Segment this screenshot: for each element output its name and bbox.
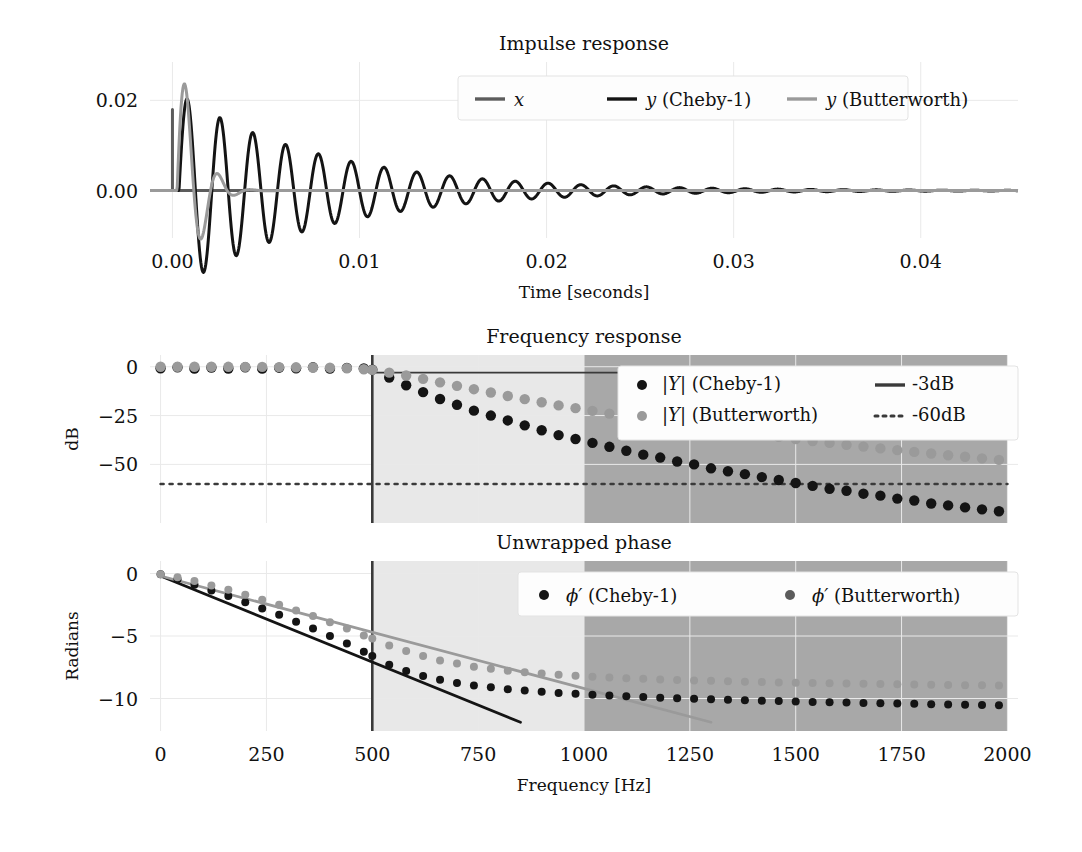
ytick-label: 0 xyxy=(126,356,138,378)
data-point xyxy=(858,441,868,451)
data-point xyxy=(893,680,901,688)
legend-label-text: (Butterworth) xyxy=(828,585,960,606)
data-point xyxy=(536,425,546,435)
data-point xyxy=(961,701,969,709)
legend-label-text: (Cheby-1) xyxy=(656,89,751,110)
data-point xyxy=(875,490,885,500)
series-y-cheby-1- xyxy=(150,99,1018,272)
data-point xyxy=(604,442,614,452)
data-point xyxy=(587,406,597,416)
data-point xyxy=(240,362,250,372)
data-point xyxy=(774,475,784,485)
data-point xyxy=(622,692,630,700)
data-point xyxy=(292,618,300,626)
figure-canvas: Impulse response0.000.020.000.010.020.03… xyxy=(0,0,1082,852)
series-x xyxy=(172,109,1014,190)
impulse-path xyxy=(172,109,1014,190)
data-point xyxy=(892,445,902,455)
data-point xyxy=(875,443,885,453)
ytick-label: −50 xyxy=(98,453,138,475)
data-point xyxy=(961,681,969,689)
legend-phase[interactable]: ϕ′ (Cheby-1)ϕ′ (Butterworth) xyxy=(518,572,1018,616)
ytick-label: −25 xyxy=(98,405,138,427)
data-point xyxy=(707,695,715,703)
data-point xyxy=(241,591,249,599)
data-point xyxy=(639,675,647,683)
data-point xyxy=(469,405,479,415)
xaxis-label: Time [seconds] xyxy=(519,282,650,302)
xtick-label: 0 xyxy=(155,743,167,765)
data-point xyxy=(343,625,351,633)
data-point xyxy=(656,675,664,683)
data-point xyxy=(520,420,530,430)
data-point xyxy=(241,598,249,606)
data-point xyxy=(572,672,580,680)
data-point xyxy=(487,665,495,673)
ytick-label: −5 xyxy=(110,625,138,647)
data-point xyxy=(876,699,884,707)
legend-marker-dot xyxy=(539,590,549,600)
legend-magnitude[interactable]: |Y| (Cheby-1)|Y| (Butterworth)-3dB-60dB xyxy=(618,366,1018,440)
legend-label-text: (Cheby-1) xyxy=(582,585,677,606)
data-point xyxy=(570,403,580,413)
data-point xyxy=(843,699,851,707)
data-point xyxy=(926,448,936,458)
data-point xyxy=(368,635,376,643)
legend-impulse[interactable]: xy (Cheby-1)y (Butterworth) xyxy=(458,76,968,120)
data-point xyxy=(452,400,462,410)
legend-item[interactable]: |Y| (Butterworth) xyxy=(637,404,818,426)
data-point xyxy=(994,506,1004,516)
data-point xyxy=(487,683,495,691)
data-point xyxy=(402,647,410,655)
xtick-label: 1000 xyxy=(560,743,608,765)
data-point xyxy=(587,438,597,448)
xtick-label: 1250 xyxy=(666,743,714,765)
data-point xyxy=(706,463,716,473)
yaxis-label: Radians xyxy=(62,611,82,680)
data-point xyxy=(309,612,317,620)
data-point xyxy=(275,601,283,609)
xtick-label: 0.03 xyxy=(712,250,754,272)
xtick-label: 2000 xyxy=(983,743,1031,765)
data-point xyxy=(435,377,445,387)
data-point xyxy=(927,681,935,689)
legend-label-text: -3dB xyxy=(912,373,954,394)
ytick-label: 0 xyxy=(126,563,138,585)
data-point xyxy=(757,472,767,482)
data-point xyxy=(503,415,513,425)
data-point xyxy=(741,678,749,686)
xtick-label: 750 xyxy=(460,743,496,765)
data-point xyxy=(809,679,817,687)
data-point xyxy=(401,380,411,390)
legend-label: ϕ′ (Butterworth) xyxy=(812,585,960,606)
ytick-label: −10 xyxy=(98,688,138,710)
data-point xyxy=(275,611,283,619)
data-point xyxy=(367,365,377,375)
legend-label-symbol: |Y| xyxy=(662,373,686,395)
legend-label: -60dB xyxy=(912,404,966,425)
data-point xyxy=(553,400,563,410)
data-point xyxy=(843,680,851,688)
data-point xyxy=(809,698,817,706)
data-point xyxy=(224,586,232,594)
data-point xyxy=(418,387,428,397)
data-point xyxy=(960,502,970,512)
xtick-label: 0.01 xyxy=(338,250,380,272)
data-point xyxy=(909,495,919,505)
data-point xyxy=(910,681,918,689)
data-point xyxy=(926,498,936,508)
data-point xyxy=(520,394,530,404)
data-point xyxy=(859,699,867,707)
data-point xyxy=(588,673,596,681)
data-point xyxy=(572,690,580,698)
data-point xyxy=(858,488,868,498)
data-point xyxy=(876,680,884,688)
data-point xyxy=(326,632,334,640)
xtick-label: 1750 xyxy=(877,743,925,765)
ytick-label: 0.02 xyxy=(96,89,138,111)
data-point xyxy=(791,478,801,488)
legend-label: -3dB xyxy=(912,373,954,394)
legend-item[interactable]: ϕ′ (Butterworth) xyxy=(785,585,960,606)
data-point xyxy=(672,456,682,466)
data-point xyxy=(470,681,478,689)
